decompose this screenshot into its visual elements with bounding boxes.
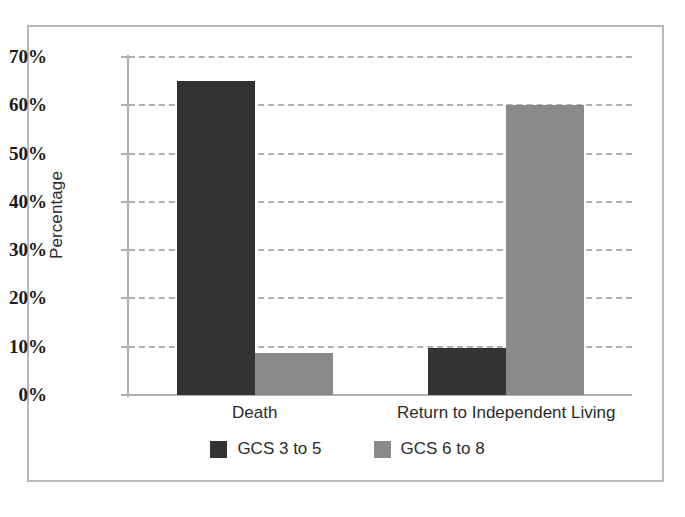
legend-swatch-icon xyxy=(374,441,391,458)
bar xyxy=(177,81,255,395)
y-axis-tick-label: 50% xyxy=(0,144,47,163)
bar-chart-figure: Percentage 70%60%50%40%30%20%10%0% Death… xyxy=(0,0,685,517)
y-axis-tick-mark xyxy=(121,201,129,203)
chart-frame: Percentage 70%60%50%40%30%20%10%0% Death… xyxy=(27,25,664,482)
bar xyxy=(255,353,333,395)
y-axis-tick-label: 60% xyxy=(0,95,47,114)
bar xyxy=(506,105,584,395)
y-axis-tick-label: 10% xyxy=(0,337,47,356)
legend-label: GCS 3 to 5 xyxy=(237,439,321,459)
y-axis-tick-mark xyxy=(121,104,129,106)
legend-item: GCS 6 to 8 xyxy=(374,439,485,459)
y-axis-tick-label: 30% xyxy=(0,240,47,259)
x-axis-category-label: Return to Independent Living xyxy=(356,403,656,423)
y-axis-tick-label: 20% xyxy=(0,288,47,307)
y-axis-tick-mark xyxy=(121,153,129,155)
bar xyxy=(428,348,506,395)
y-axis-tick-label: 40% xyxy=(0,192,47,211)
y-axis-tick-mark xyxy=(121,346,129,348)
y-axis-tick-mark xyxy=(121,394,129,396)
legend: GCS 3 to 5GCS 6 to 8 xyxy=(29,439,666,459)
y-axis-title: Percentage xyxy=(47,125,67,305)
y-axis-tick-mark xyxy=(121,297,129,299)
plot-area xyxy=(129,57,632,395)
legend-item: GCS 3 to 5 xyxy=(210,439,321,459)
y-axis-tick-label: 0% xyxy=(0,385,47,404)
legend-label: GCS 6 to 8 xyxy=(401,439,485,459)
y-axis-tick-label: 70% xyxy=(0,47,47,66)
y-axis-tick-mark xyxy=(121,56,129,58)
y-axis-tick-mark xyxy=(121,249,129,251)
legend-swatch-icon xyxy=(210,441,227,458)
